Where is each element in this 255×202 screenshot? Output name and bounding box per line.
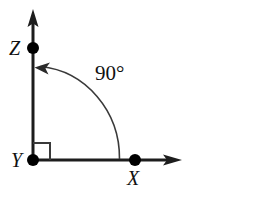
point-marker-x	[129, 154, 141, 166]
label-z: Z	[9, 38, 20, 58]
label-y: Y	[11, 150, 22, 170]
point-marker-z	[27, 42, 39, 54]
geometry-figure: Z Y X 90°	[0, 0, 255, 202]
curved-arrow-icon	[35, 63, 51, 75]
label-x: X	[127, 168, 139, 188]
angle-measure-label: 90°	[95, 63, 124, 84]
point-marker-y	[27, 154, 39, 166]
